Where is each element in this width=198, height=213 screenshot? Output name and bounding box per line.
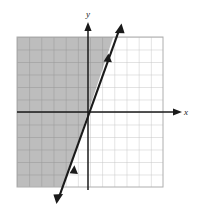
graph-figure: x y <box>0 0 198 213</box>
y-axis-arrowhead <box>84 22 91 31</box>
x-axis-arrowhead <box>173 108 182 115</box>
x-axis-label: x <box>183 107 188 117</box>
line-arrowhead-upper <box>115 24 125 34</box>
line-arrowhead-lower <box>53 194 63 204</box>
coordinate-plane-svg: x y <box>0 0 198 213</box>
y-axis-label: y <box>85 9 90 19</box>
